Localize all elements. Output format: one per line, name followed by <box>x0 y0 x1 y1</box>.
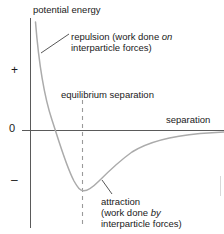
repulsion-text-part1: repulsion (work done <box>71 31 162 42</box>
repulsion-text-emphasis: on <box>162 31 173 42</box>
x-axis-title: separation <box>166 114 210 125</box>
equilibrium-separation-label: equilibrium separation <box>61 89 154 100</box>
y-tick-label-negative: – <box>11 173 18 187</box>
attraction-text-line3: interparticle forces) <box>101 218 182 229</box>
attraction-text-part1: (work done <box>101 207 151 218</box>
attraction-text-line1: attraction <box>101 196 140 207</box>
repulsion-leader-line <box>41 34 69 53</box>
y-tick-label-positive: + <box>11 63 18 77</box>
repulsion-text-part2: interparticle forces) <box>71 42 152 53</box>
y-axis-title: potential energy <box>33 4 101 15</box>
y-tick-label-zero: 0 <box>9 122 15 135</box>
attraction-leader-line <box>102 180 112 194</box>
attraction-annotation: attraction (work done by interparticle f… <box>101 196 182 230</box>
attraction-text-emphasis: by <box>151 207 161 218</box>
repulsion-annotation: repulsion (work done on interparticle fo… <box>71 31 172 53</box>
potential-energy-diagram: potential energy separation + 0 – equili… <box>0 0 224 234</box>
